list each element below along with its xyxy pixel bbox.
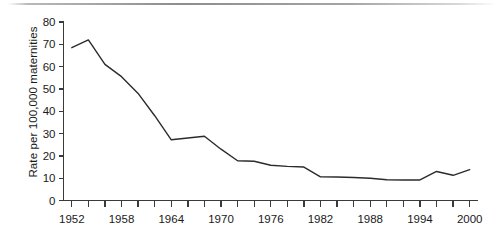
y-tick-label: 50	[30, 83, 56, 95]
x-tick-label: 1988	[348, 213, 392, 225]
y-tick-label: 80	[30, 16, 56, 28]
x-tick-label: 1982	[298, 213, 342, 225]
y-tick-label: 0	[30, 195, 56, 207]
x-tick-label: 1976	[249, 213, 293, 225]
y-tick-label: 20	[30, 150, 56, 162]
axes-group	[59, 22, 479, 207]
x-tick-label: 1970	[199, 213, 243, 225]
y-tick-label: 30	[30, 128, 56, 140]
y-tick-label: 10	[30, 172, 56, 184]
x-tick-label: 1958	[100, 213, 144, 225]
y-tick-label: 60	[30, 61, 56, 73]
x-tick-label: 1964	[149, 213, 193, 225]
y-tick-label: 40	[30, 105, 56, 117]
x-tick-label: 1952	[50, 213, 94, 225]
x-tick-label: 2000	[448, 213, 492, 225]
plot-area	[0, 0, 503, 247]
x-tick-label: 1994	[398, 213, 442, 225]
data-series-group	[72, 40, 470, 180]
data-line-maternal-mortality-rate	[72, 40, 470, 180]
y-tick-label: 70	[30, 38, 56, 50]
chart-figure: Rate per 100,000 maternities 01020304050…	[0, 0, 503, 247]
